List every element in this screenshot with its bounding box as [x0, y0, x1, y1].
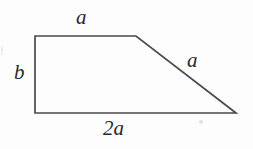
side-label-bottom: 2a — [103, 118, 124, 139]
scan-artifact-bottom — [199, 120, 203, 124]
side-label-left: b — [14, 62, 25, 83]
trapezoid-outline — [35, 36, 236, 113]
side-label-slant: a — [187, 50, 198, 71]
scan-artifact-left — [1, 46, 3, 55]
side-label-top: a — [76, 7, 87, 28]
trapezoid-drawing — [0, 0, 253, 149]
geometry-figure: a b a 2a — [0, 0, 253, 149]
